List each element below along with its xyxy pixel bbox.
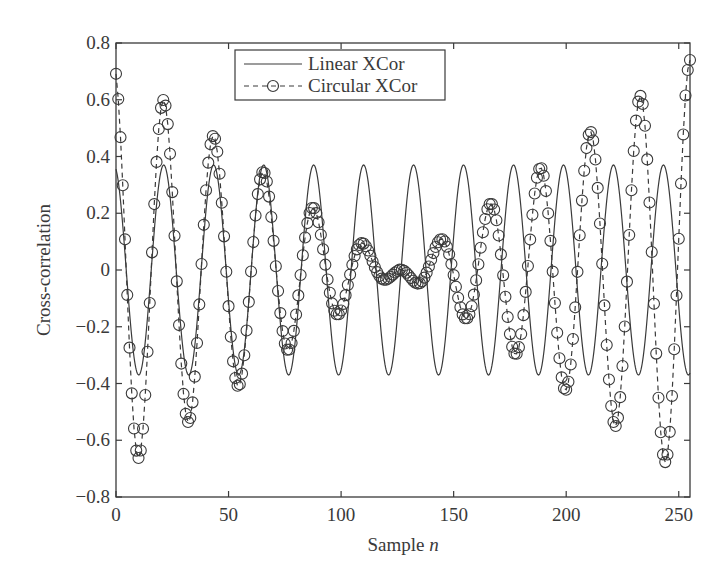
x-tick-label: 50: [219, 504, 238, 525]
y-tick-label: −0.6: [76, 429, 110, 450]
x-tick-label: 250: [664, 504, 693, 525]
circle-marker-icon: [342, 280, 353, 291]
y-tick-label: 0.8: [86, 32, 110, 53]
circle-marker-icon: [133, 453, 144, 464]
circle-marker-icon: [428, 248, 439, 259]
circle-marker-icon: [448, 270, 459, 281]
x-axis-label: Sample n: [367, 534, 438, 555]
circle-marker-icon: [183, 416, 194, 427]
circle-marker-icon: [516, 329, 527, 340]
y-tick-label: −0.2: [76, 316, 110, 337]
circle-marker-icon: [324, 287, 335, 298]
circle-marker-icon: [426, 254, 437, 265]
circular-xcor-markers: [111, 55, 696, 468]
cross-correlation-chart: 050100150200250−0.8−0.6−0.4−0.200.20.40.…: [0, 0, 727, 579]
x-axis-label-var: n: [429, 534, 439, 555]
y-tick-label: −0.4: [76, 373, 111, 394]
y-axis-label: Cross-correlation: [33, 204, 54, 336]
legend-label-linear: Linear XCor: [308, 53, 405, 74]
legend: Linear XCor Circular XCor: [235, 50, 445, 100]
circle-marker-icon: [207, 131, 218, 142]
y-tick-label: 0.4: [86, 146, 110, 167]
x-tick-label: 100: [327, 504, 356, 525]
x-axis-label-text: Sample: [367, 534, 424, 555]
y-tick-label: −0.8: [76, 486, 110, 507]
x-tick-label: 200: [552, 504, 581, 525]
x-tick-label: 0: [111, 504, 121, 525]
plot-series: [111, 55, 696, 468]
y-tick-label: 0.6: [86, 89, 110, 110]
circle-marker-icon: [660, 457, 671, 468]
y-tick-label: 0: [101, 259, 111, 280]
legend-label-circular: Circular XCor: [308, 75, 418, 96]
y-tick-label: 0.2: [86, 202, 110, 223]
x-tick-label: 150: [439, 504, 468, 525]
